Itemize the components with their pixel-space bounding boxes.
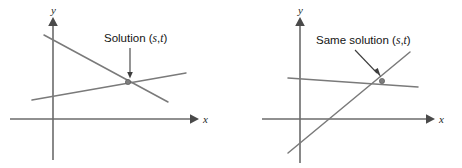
left-x-axis [10,114,199,124]
left-line-ascending [32,73,186,100]
left-solution-label-prefix: Solution ( [104,32,153,44]
left-y-axis-arrowhead [48,17,58,26]
right-pointer-shaft [355,50,377,73]
right-x-axis-arrowhead [426,114,435,124]
two-panel-solution-figure: y x Solution (s,t) [0,0,462,168]
right-pointer-arrowhead [374,68,381,77]
right-solution-point [379,78,384,83]
left-y-axis-label: y [50,4,56,16]
left-x-axis-label: x [202,113,208,125]
right-solution-label-prefix: Same solution ( [316,34,396,46]
left-annotation-pointer [127,48,133,79]
right-panel: y x Same solution (s,t) [262,4,444,163]
right-annotation-pointer [355,50,381,77]
right-solution-label: Same solution (s,t) [316,34,411,46]
left-solution-label: Solution (s,t) [104,32,167,44]
left-solution-label-suffix: ) [163,32,167,44]
figure-canvas: y x Solution (s,t) [0,0,462,168]
left-line-descending [44,35,168,102]
right-line-steep-ascending [288,52,410,153]
right-line-shallow-descending [288,78,418,87]
left-panel: y x Solution (s,t) [10,4,208,160]
right-y-axis-label: y [297,4,303,16]
left-pointer-arrowhead [127,72,133,79]
right-y-axis-arrowhead [295,17,305,26]
left-solution-point [125,79,130,84]
left-x-axis-arrowhead [190,114,199,124]
right-x-axis [262,114,435,124]
right-solution-label-suffix: ) [407,34,411,46]
right-x-axis-label: x [438,113,444,125]
